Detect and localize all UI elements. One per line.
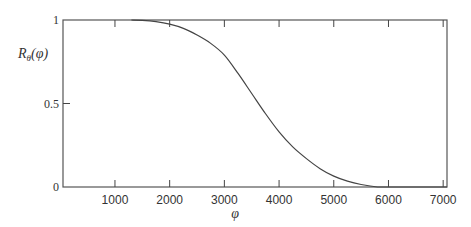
- x-tick-label: 2000: [156, 193, 183, 207]
- x-tick-label: 7000: [430, 193, 457, 207]
- y-axis-label-main: R: [17, 46, 27, 61]
- x-tick-label: 3000: [211, 193, 238, 207]
- x-tick-label: 5000: [320, 193, 347, 207]
- y-axis-label: Rθ(φ): [17, 46, 48, 63]
- x-axis-label: φ: [231, 206, 239, 221]
- series-line: [131, 20, 447, 187]
- data-series: [131, 20, 447, 187]
- plot-border: [63, 20, 447, 187]
- y-tick-label: 1: [53, 13, 59, 27]
- x-tick-label: 4000: [266, 193, 293, 207]
- chart: 1000200030004000500060007000 00.51 φ Rθ(…: [0, 0, 471, 227]
- x-tick-label: 1000: [102, 193, 129, 207]
- y-axis-ticks: 00.51: [44, 13, 70, 194]
- x-tick-label: 6000: [375, 193, 402, 207]
- plot-frame: [63, 20, 447, 187]
- y-tick-label: 0: [53, 180, 59, 194]
- y-axis-label-arg: (φ): [31, 46, 48, 62]
- x-axis-ticks: 1000200030004000500060007000: [102, 20, 457, 207]
- y-tick-label: 0.5: [44, 97, 59, 111]
